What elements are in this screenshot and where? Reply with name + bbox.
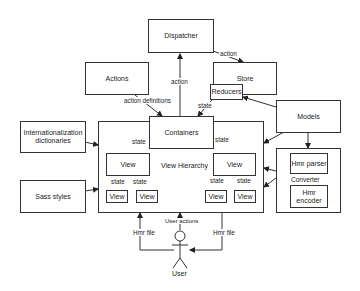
view-right-node: View [213, 153, 256, 176]
edge-label-state-lr: state [132, 178, 148, 185]
reducers-node: Reducers [210, 84, 243, 100]
user-label: User [172, 270, 187, 277]
i18n-dictionaries-node: Internationalization dictionaries [20, 121, 86, 153]
edge-label-user-actions: User actions [164, 218, 199, 224]
view-leaf-1-label: View [109, 193, 124, 201]
view-leaf-3-label: View [208, 193, 223, 201]
view-hierarchy-label: View Hierarchy [161, 162, 208, 169]
hmr-encoder-label: Hmr encoder [295, 189, 323, 205]
hmr-parser-node: Hmr parser [290, 153, 328, 174]
edge-label-action-dispatcher: action [170, 78, 189, 85]
view-leaf-2: View [136, 190, 158, 203]
reducers-label: Reducers [212, 88, 242, 96]
edge-label-state-ll: state [110, 178, 126, 185]
edge-label-state-rr: state [236, 177, 252, 184]
sass-styles-node: Sass styles [20, 180, 86, 213]
edge-label-hmr-file-in: Hmr file [132, 229, 156, 236]
edge-label-state-reducers: state [197, 102, 213, 109]
actions-label: Actions [106, 75, 129, 83]
store-label: Store [237, 75, 254, 83]
hmr-parser-label: Hmr parser [291, 160, 326, 168]
edge-label-state-rl: state [209, 177, 225, 184]
actions-node: Actions [85, 62, 149, 95]
view-leaf-4-label: View [237, 193, 252, 201]
edge-label-state-left: state [131, 138, 147, 145]
edge-label-state-right: state [214, 136, 230, 143]
view-leaf-4: View [234, 190, 256, 203]
user-actor-icon [172, 231, 188, 268]
models-label: Models [297, 113, 320, 121]
converter-label: Converter [291, 176, 320, 183]
hmr-encoder-node: Hmr encoder [290, 185, 328, 208]
sass-label: Sass styles [35, 193, 70, 201]
containers-label: Containers [165, 129, 199, 137]
containers-node: Containers [149, 116, 214, 149]
dispatcher-label: Dispatcher [164, 32, 197, 40]
edge-label-action-definitions: action definitions [123, 97, 172, 104]
view-right-label: View [227, 161, 242, 169]
models-node: Models [276, 100, 341, 133]
view-left-label: View [120, 161, 135, 169]
view-left-node: View [106, 153, 150, 176]
i18n-label: Internationalization dictionaries [23, 129, 83, 145]
dispatcher-node: Dispatcher [148, 19, 214, 53]
view-leaf-3: View [205, 190, 227, 203]
view-leaf-2-label: View [139, 193, 154, 201]
view-leaf-1: View [106, 190, 128, 203]
edge-label-hmr-file-out: Hmr file [212, 229, 236, 236]
edge-label-action-store: action [219, 50, 238, 57]
